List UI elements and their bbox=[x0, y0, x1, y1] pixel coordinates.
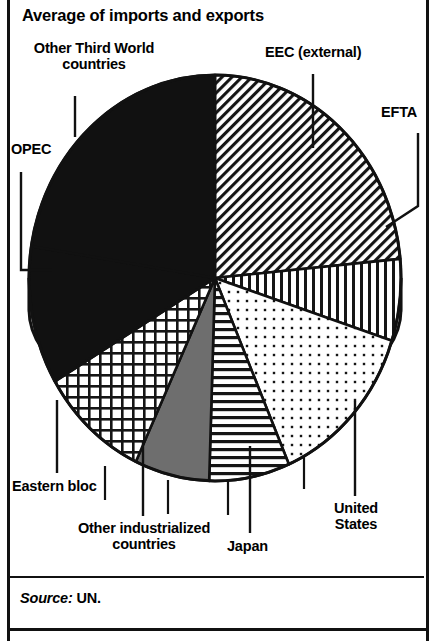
source-note: Source: UN. bbox=[20, 590, 101, 606]
source-prefix: Source: bbox=[20, 590, 73, 606]
pie-slices bbox=[29, 75, 401, 481]
pie-slice bbox=[31, 75, 215, 278]
label-japan: Japan bbox=[227, 538, 268, 554]
label-other-industrialized-line2: countries bbox=[58, 536, 230, 552]
label-united-states-line2: States bbox=[322, 516, 390, 532]
source-divider bbox=[10, 576, 424, 578]
label-other-third-world-line2: countries bbox=[14, 56, 174, 72]
label-other-industrialized-line1: Other industrialized bbox=[58, 520, 230, 536]
label-other-third-world: Other Third World countries bbox=[14, 40, 174, 72]
label-opec: OPEC bbox=[11, 141, 51, 157]
pie-slice bbox=[215, 75, 400, 278]
label-other-industrialized: Other industrialized countries bbox=[58, 520, 230, 552]
source-value: UN. bbox=[76, 590, 100, 606]
label-eastern-bloc: Eastern bloc bbox=[12, 478, 97, 494]
label-eec: EEC (external) bbox=[265, 44, 361, 60]
chart-figure: Average of imports and exports bbox=[0, 0, 430, 641]
label-united-states-line1: United bbox=[322, 500, 390, 516]
label-other-third-world-line1: Other Third World bbox=[14, 40, 174, 56]
label-united-states: United States bbox=[322, 500, 390, 532]
label-efta: EFTA bbox=[381, 104, 417, 120]
